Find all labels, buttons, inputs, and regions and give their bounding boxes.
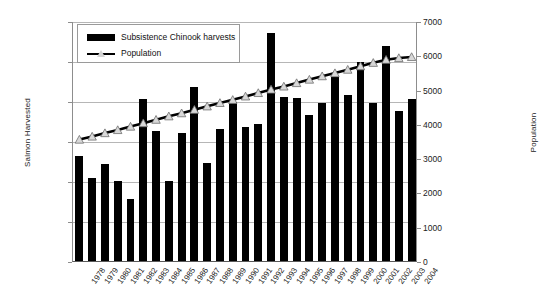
- y-axis-right-tick-label: 7000: [423, 18, 463, 27]
- bar: [229, 102, 237, 261]
- bar: [318, 103, 326, 261]
- bar: [127, 199, 135, 261]
- y-axis-right-tick-label: 0: [423, 258, 463, 267]
- y-axis-right-tick-label: 6000: [423, 52, 463, 61]
- legend-label-harvests: Subsistence Chinook harvests: [121, 32, 235, 42]
- bar: [280, 97, 288, 261]
- y-axis-right-tick-label: 3000: [423, 155, 463, 164]
- y-axis-right-tick-label: 2000: [423, 189, 463, 198]
- legend-bar-swatch-icon: [87, 34, 115, 41]
- bar: [382, 46, 390, 261]
- bar: [408, 99, 416, 261]
- y-axis-right-tick-mark: [417, 159, 421, 160]
- population-triangle-marker-icon: [407, 53, 415, 61]
- bar: [178, 133, 186, 261]
- population-triangle-marker-icon: [254, 89, 262, 97]
- y-axis-right-tick-label: 5000: [423, 87, 463, 96]
- y-axis-right-tick-mark: [417, 91, 421, 92]
- bar: [254, 124, 262, 261]
- y-axis-right-tick-mark: [417, 22, 421, 23]
- bar: [369, 103, 377, 261]
- bar: [75, 156, 83, 261]
- y-axis-left-tick-mark: [68, 262, 72, 263]
- bar: [101, 164, 109, 261]
- bar: [190, 87, 198, 261]
- population-triangle-marker-icon: [280, 82, 288, 90]
- chart-legend: Subsistence Chinook harvests Population: [77, 24, 240, 63]
- population-triangle-marker-icon: [114, 126, 122, 134]
- bar: [267, 33, 275, 261]
- bar: [114, 181, 122, 261]
- bar: [344, 95, 352, 261]
- chart-container: Salmon Harvested Population 050001000015…: [0, 0, 542, 303]
- population-triangle-marker-icon: [177, 109, 185, 117]
- y-axis-right-tick-mark: [417, 56, 421, 57]
- legend-entry-population: Population: [78, 45, 239, 61]
- y-axis-right-tick-mark: [417, 193, 421, 194]
- population-triangle-marker-icon: [88, 132, 96, 140]
- population-triangle-marker-icon: [152, 116, 160, 124]
- bar: [331, 77, 339, 261]
- population-triangle-marker-icon: [395, 54, 403, 62]
- legend-line-swatch-icon: [87, 49, 115, 58]
- bar: [152, 131, 160, 261]
- population-triangle-marker-icon: [305, 75, 313, 83]
- y-axis-right-tick-mark: [417, 125, 421, 126]
- y-axis-right-tick-mark: [417, 228, 421, 229]
- y-axis-right-tick-mark: [417, 262, 421, 263]
- population-triangle-marker-icon: [241, 92, 249, 100]
- population-triangle-marker-icon: [344, 65, 352, 73]
- y-axis-right-title: Population: [529, 78, 538, 188]
- y-axis-left-title: Salmon Harvested: [23, 78, 32, 188]
- population-triangle-marker-icon: [126, 122, 134, 130]
- bar: [305, 115, 313, 261]
- y-axis-right-tick-label: 1000: [423, 224, 463, 233]
- gridline: [73, 22, 416, 23]
- bar: [216, 129, 224, 261]
- legend-entry-harvests: Subsistence Chinook harvests: [78, 29, 239, 45]
- population-triangle-marker-icon: [331, 69, 339, 77]
- bar: [203, 163, 211, 261]
- bar: [242, 127, 250, 261]
- bar: [395, 111, 403, 261]
- population-triangle-marker-icon: [165, 112, 173, 120]
- population-triangle-marker-icon: [101, 129, 109, 137]
- bar: [357, 62, 365, 261]
- legend-triangle-marker-icon: [97, 50, 105, 57]
- bar: [88, 178, 96, 261]
- bar: [165, 181, 173, 261]
- legend-label-population: Population: [121, 48, 161, 58]
- population-triangle-marker-icon: [318, 72, 326, 80]
- gridline: [73, 102, 416, 103]
- y-axis-right-tick-label: 4000: [423, 121, 463, 130]
- population-triangle-marker-icon: [203, 102, 211, 110]
- bar: [293, 98, 301, 261]
- bar: [139, 99, 147, 261]
- population-triangle-marker-icon: [292, 79, 300, 87]
